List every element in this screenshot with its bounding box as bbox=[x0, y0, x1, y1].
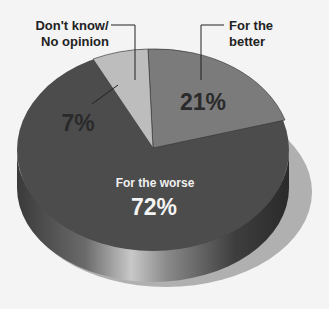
value-better: 21% bbox=[180, 89, 226, 115]
label-worse: For the worse bbox=[116, 176, 195, 190]
label-better-line2: better bbox=[229, 34, 265, 49]
label-dont-know-line1: Don't know/ bbox=[35, 18, 109, 33]
label-better-line1: For the bbox=[229, 18, 273, 33]
pie-chart: Don't know/ No opinion For the better 21… bbox=[0, 0, 329, 309]
value-worse: 72% bbox=[131, 194, 177, 220]
label-dont-know-line2: No opinion bbox=[41, 34, 109, 49]
value-dont-know: 7% bbox=[61, 110, 94, 136]
